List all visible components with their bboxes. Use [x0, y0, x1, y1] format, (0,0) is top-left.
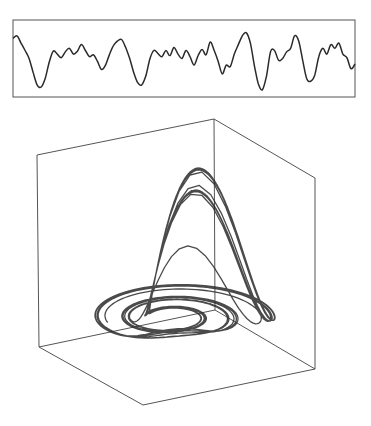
attractor-trajectory: [95, 168, 275, 338]
time-series-line: [13, 33, 355, 90]
attractor-curve: [95, 168, 275, 338]
box-edge: [143, 369, 315, 405]
box-edge: [214, 119, 215, 310]
figure: [0, 0, 371, 426]
time-series-plot: [13, 20, 355, 97]
box-edge: [37, 155, 39, 347]
box-edge: [37, 119, 214, 155]
box-edge: [214, 119, 315, 178]
time-series-frame: [13, 20, 355, 97]
box-edge: [39, 347, 143, 405]
attractor-box: [37, 119, 315, 405]
figure-canvas: [0, 0, 371, 426]
